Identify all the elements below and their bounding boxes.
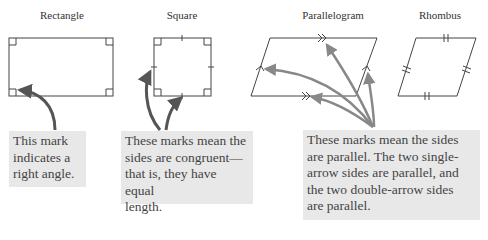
callout-line: the two double-arrow sides [307,182,476,199]
square-shape [151,35,214,99]
callout-line: sides are congruent— [125,150,249,167]
callout-congruent: These marks mean the sides are congruent… [121,131,253,204]
callout-line: are parallel. The two single- [307,149,476,166]
arrow-to-congruent-bottom [166,98,181,130]
callout-line: indicates a [13,150,82,167]
callout-line: These marks mean the [125,133,249,150]
callout-line: are parallel. [307,198,476,215]
callout-parallel: These marks mean the sides are parallel.… [303,130,480,220]
callout-line: right angle. [13,166,82,183]
callout-line: length. [125,199,249,216]
arrow-to-parallel-top [327,45,373,127]
right-angle-mark [204,89,211,96]
parallelogram-shape [251,34,377,100]
right-angle-mark [106,38,113,45]
callout-line: This mark [13,133,82,150]
callout-line: These marks mean the sides [307,132,476,149]
rhombus-shape [398,34,476,100]
callout-line: that is, they have equal [125,166,249,199]
callout-line: arrow sides are parallel, and [307,165,476,182]
arrow-to-congruent-left [146,72,160,130]
right-angle-mark [106,89,113,96]
right-angle-mark [154,89,161,96]
right-angle-mark [9,38,16,45]
right-angle-mark [154,38,161,45]
right-angle-mark [204,38,211,45]
callout-right-angle: This mark indicates a right angle. [9,131,86,187]
arrow-to-parallel-bottom [312,97,373,127]
right-angle-mark [9,89,16,96]
rectangle-shape [9,38,113,96]
congruence-tick [462,66,471,73]
